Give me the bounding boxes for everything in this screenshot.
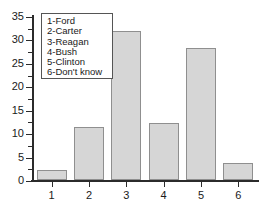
x-axis-tick (126, 182, 127, 187)
x-axis-tick (52, 182, 53, 187)
x-axis-line (31, 180, 259, 182)
y-axis-tick (26, 181, 33, 182)
y-axis-tick-label: 5 (0, 152, 24, 163)
x-axis-tick-label: 5 (191, 189, 211, 201)
y-axis-tick-label-text: 0 (2, 175, 24, 186)
y-axis-tick (26, 17, 33, 18)
bar (149, 123, 179, 180)
x-axis-tick (164, 182, 165, 187)
y-axis-tick-label-text: 10 (2, 128, 24, 139)
y-axis-tick-label-text: 25 (2, 58, 24, 69)
y-axis-tick (26, 87, 33, 88)
bar (37, 170, 67, 180)
x-axis-tick-label: 4 (154, 189, 174, 201)
y-axis-tick (26, 134, 33, 135)
y-axis-tick (26, 111, 33, 112)
y-axis-tick-label: 25 (0, 58, 24, 69)
y-axis-tick-label: 20 (0, 81, 24, 92)
y-axis-tick (26, 158, 33, 159)
bar (186, 48, 216, 180)
legend-item: 6-Don't know (47, 67, 112, 77)
y-axis-tick-label-text: 35 (2, 11, 24, 22)
bar-chart: 05101520253035 123456 1-Ford 2-Carter 3-… (0, 0, 269, 214)
x-axis-tick (238, 182, 239, 187)
x-axis-tick-label: 2 (79, 189, 99, 201)
y-axis-tick-label-text: 20 (2, 81, 24, 92)
bar (111, 31, 141, 180)
y-axis-tick-label: 30 (0, 34, 24, 45)
x-axis-tick-label: 1 (42, 189, 62, 201)
x-axis-tick (89, 182, 90, 187)
y-axis-tick (26, 40, 33, 41)
y-axis-tick-label-text: 5 (2, 152, 24, 163)
y-axis-tick-label: 0 (0, 175, 24, 186)
x-axis-tick-label: 3 (116, 189, 136, 201)
legend: 1-Ford 2-Carter 3-Reagan 4-Bush 5-Clinto… (41, 13, 113, 79)
y-axis-tick-label: 15 (0, 105, 24, 116)
y-axis-tick-label: 35 (0, 11, 24, 22)
x-axis-tick (201, 182, 202, 187)
y-axis-tick (26, 64, 33, 65)
y-axis-tick-label-text: 15 (2, 105, 24, 116)
bar (74, 127, 104, 180)
x-axis-tick-label: 6 (228, 189, 248, 201)
y-axis-tick-label-text: 30 (2, 34, 24, 45)
bar (223, 163, 253, 180)
y-axis-tick-label: 10 (0, 128, 24, 139)
